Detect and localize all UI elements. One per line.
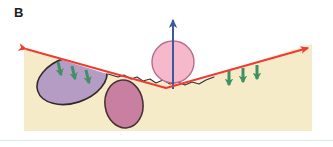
figure-diagram	[0, 0, 333, 147]
figure-panel: B	[0, 0, 333, 147]
panel-bottom-rule	[0, 140, 333, 147]
panel-label: B	[14, 6, 24, 19]
